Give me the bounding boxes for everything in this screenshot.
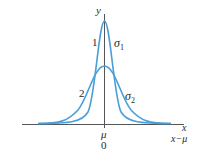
sigma-1-label: σ1 bbox=[114, 36, 124, 52]
x-axis-label: x bbox=[181, 122, 187, 133]
sigma-2-label: σ2 bbox=[125, 89, 135, 105]
gaussian-diagram: y 1 σ1 2 σ2 μ 0 x x−μ bbox=[0, 0, 197, 157]
curve-2-label: 2 bbox=[79, 87, 85, 99]
x-minus-mu-label: x−μ bbox=[170, 133, 187, 144]
curve-1-label: 1 bbox=[92, 36, 98, 48]
y-axis-label: y bbox=[95, 4, 101, 16]
zero-label: 0 bbox=[101, 139, 107, 151]
